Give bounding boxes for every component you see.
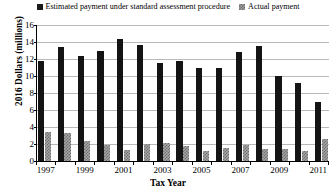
bar-estimated [117,39,123,161]
bar-pair [137,25,150,161]
y-tick-label: 6 [12,105,34,115]
bar-pair [38,25,51,161]
bar-estimated [38,61,44,161]
bar-actual [302,151,308,161]
bar-actual [104,145,110,161]
bar-estimated [216,68,222,162]
bar-pair [157,25,170,161]
y-tick-label: 4 [12,122,34,132]
x-tick-label: 2005 [192,165,210,175]
bar-pair [58,25,71,161]
bar-actual [144,144,150,161]
bar-pair [176,25,189,161]
y-tick-label: 10 [12,71,34,81]
x-tick-mark [328,161,329,165]
bar-pair [196,25,209,161]
bar-actual [84,141,90,161]
bar-actual [243,145,249,161]
bar-actual [322,139,328,161]
bar-actual [124,150,130,161]
bar-actual [45,132,51,161]
x-tick-label: 2011 [309,165,327,175]
legend-label-estimated: Estimated payment under standard assessm… [46,2,231,12]
x-tick-label: 2007 [231,165,249,175]
bar-estimated [196,68,202,161]
bar-pair [315,25,328,161]
bar-estimated [256,46,262,161]
bar-estimated [97,51,103,161]
bar-pair [256,25,269,161]
bar-group-container [37,25,329,161]
bar-estimated [58,47,64,161]
x-tick-label: 2009 [270,165,288,175]
y-tick-label: 12 [12,54,34,64]
bar-estimated [176,61,182,161]
chart-root: Estimated payment under standard assessm… [0,0,336,196]
bar-actual [203,151,209,161]
hatched-square-icon [239,4,245,10]
y-tick-label: 0 [12,156,34,166]
legend-item-actual: Actual payment [239,2,299,12]
chart-legend: Estimated payment under standard assessm… [0,2,336,12]
x-axis-title: Tax Year [0,178,336,188]
x-axis-tick-labels: 19971999200120032005200720092011 [36,165,328,177]
bar-estimated [78,56,84,161]
y-tick-label: 8 [12,88,34,98]
bar-actual [163,143,169,161]
bar-pair [78,25,91,161]
x-tick-label: 1997 [37,165,55,175]
x-tick-label: 2003 [154,165,172,175]
filled-square-icon [37,4,43,10]
bar-actual [183,146,189,161]
bar-actual [64,133,70,161]
bar-estimated [295,83,301,161]
bar-actual [282,149,288,161]
x-tick-label: 2001 [115,165,133,175]
bar-pair [117,25,130,161]
bar-estimated [236,52,242,161]
bar-estimated [157,63,163,161]
plot-area: 0246810121416 [36,25,329,162]
bar-pair [236,25,249,161]
bar-pair [216,25,229,161]
legend-item-estimated: Estimated payment under standard assessm… [37,2,231,12]
bar-actual [262,149,268,161]
bar-estimated [315,102,321,162]
bar-pair [275,25,288,161]
bar-estimated [275,76,281,161]
bar-pair [97,25,110,161]
y-tick-label: 16 [12,20,34,30]
y-tick-label: 2 [12,139,34,149]
legend-label-actual: Actual payment [248,2,299,12]
bar-pair [295,25,308,161]
bar-actual [223,148,229,161]
x-tick-label: 1999 [76,165,94,175]
y-tick-label: 14 [12,37,34,47]
bar-estimated [137,45,143,161]
